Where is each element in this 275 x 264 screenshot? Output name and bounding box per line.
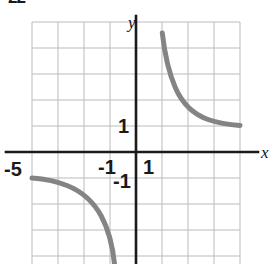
curve-branch-lower-left	[32, 178, 115, 264]
x-axis-label: x	[260, 143, 269, 162]
y-axis-label: y	[126, 13, 136, 32]
y-tick-label-1: 1	[118, 115, 129, 137]
y-tick-label-minus1: -1	[113, 170, 131, 192]
x-tick-label-minus5: -5	[4, 158, 22, 180]
axes	[6, 16, 258, 264]
reciprocal-function-graph: y x -5 -1 1 1 -1	[0, 0, 275, 264]
x-tick-label-1: 1	[143, 156, 154, 178]
curve-branch-upper-right	[162, 33, 240, 125]
